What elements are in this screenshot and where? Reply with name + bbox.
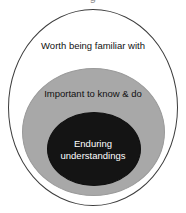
nested-circles-diagram: g Worth being familiar with Important to… xyxy=(0,0,186,213)
inner-ellipse-enduring-understandings xyxy=(47,112,141,186)
cropped-title-glyph: g xyxy=(0,0,186,3)
